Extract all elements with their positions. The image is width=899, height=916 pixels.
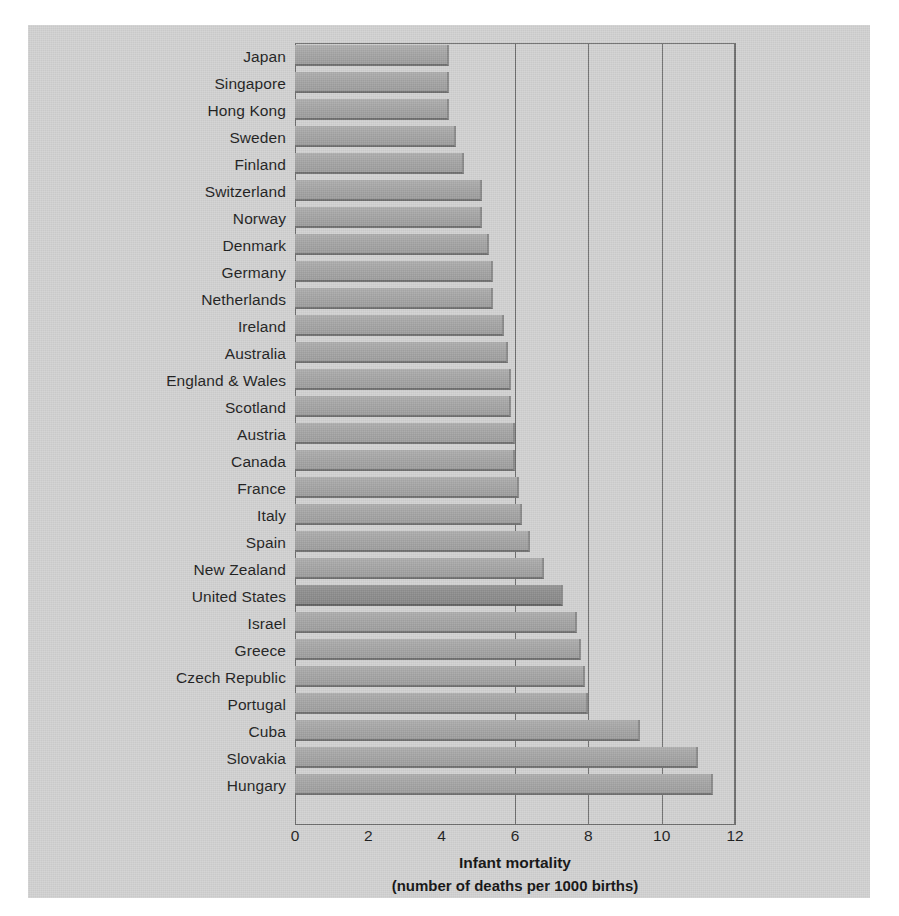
bar-row: France <box>295 475 735 502</box>
bar <box>295 531 530 552</box>
bar-row: Italy <box>295 502 735 529</box>
category-label: Austria <box>237 421 286 448</box>
category-label: Denmark <box>222 232 286 259</box>
category-label: Czech Republic <box>176 664 286 691</box>
bar-row: Czech Republic <box>295 664 735 691</box>
bar-row: England & Wales <box>295 367 735 394</box>
category-label: Switzerland <box>205 178 286 205</box>
category-label: Ireland <box>238 313 286 340</box>
bar <box>295 558 544 579</box>
category-label: Israel <box>247 610 286 637</box>
bar-row: Sweden <box>295 124 735 151</box>
bar <box>295 288 493 309</box>
bar <box>295 720 640 741</box>
category-label: Cuba <box>249 718 286 745</box>
category-label: Netherlands <box>201 286 286 313</box>
bar <box>295 396 511 417</box>
bar-row: Portugal <box>295 691 735 718</box>
bar <box>295 45 449 66</box>
category-label: Norway <box>233 205 286 232</box>
bar-row: Switzerland <box>295 178 735 205</box>
bar-row: Australia <box>295 340 735 367</box>
bar <box>295 666 585 687</box>
bar <box>295 639 581 660</box>
category-label: Germany <box>222 259 286 286</box>
bar <box>295 423 515 444</box>
bar <box>295 585 563 606</box>
bar <box>295 207 482 228</box>
bar <box>295 261 493 282</box>
x-axis-title: Infant mortality (number of deaths per 1… <box>295 851 735 897</box>
category-label: Spain <box>246 529 286 556</box>
bar <box>295 693 588 714</box>
bar-row: Canada <box>295 448 735 475</box>
bar-row: Ireland <box>295 313 735 340</box>
gridline-12 <box>735 43 736 825</box>
bar <box>295 72 449 93</box>
category-label: United States <box>192 583 286 610</box>
category-label: England & Wales <box>166 367 286 394</box>
category-label: Hong Kong <box>208 97 286 124</box>
bar-row: Austria <box>295 421 735 448</box>
bar-row: Hong Kong <box>295 97 735 124</box>
bar <box>295 99 449 120</box>
bar-row: Scotland <box>295 394 735 421</box>
bar-row: Greece <box>295 637 735 664</box>
plot-area: JapanSingaporeHong KongSwedenFinlandSwit… <box>295 43 735 825</box>
category-label: Japan <box>243 43 286 70</box>
bar <box>295 747 698 768</box>
bar <box>295 126 456 147</box>
bar-row: Germany <box>295 259 735 286</box>
category-label: Greece <box>235 637 286 664</box>
bar-row: Israel <box>295 610 735 637</box>
bar <box>295 180 482 201</box>
bar <box>295 450 515 471</box>
category-label: Portugal <box>227 691 286 718</box>
category-label: New Zealand <box>194 556 286 583</box>
category-label: Italy <box>257 502 286 529</box>
x-axis-title-line1: Infant mortality <box>295 851 735 874</box>
category-label: Slovakia <box>227 745 286 772</box>
bar-row: Spain <box>295 529 735 556</box>
bar-row: Netherlands <box>295 286 735 313</box>
bar-row: Cuba <box>295 718 735 745</box>
bar <box>295 774 713 795</box>
bar <box>295 342 508 363</box>
bar-row: United States <box>295 583 735 610</box>
chart-figure: JapanSingaporeHong KongSwedenFinlandSwit… <box>28 25 870 898</box>
bar <box>295 234 489 255</box>
x-tick-label: 2 <box>364 827 373 845</box>
category-label: Sweden <box>229 124 286 151</box>
x-tick-label: 8 <box>584 827 593 845</box>
bar-row: Japan <box>295 43 735 70</box>
bar-row: Finland <box>295 151 735 178</box>
bar <box>295 369 511 390</box>
category-label: Canada <box>231 448 286 475</box>
x-tick-label: 4 <box>437 827 446 845</box>
bar <box>295 477 519 498</box>
bar-row: Denmark <box>295 232 735 259</box>
category-label: Singapore <box>214 70 286 97</box>
category-label: Scotland <box>225 394 286 421</box>
x-tick-label: 6 <box>511 827 520 845</box>
bar-rows: JapanSingaporeHong KongSwedenFinlandSwit… <box>295 43 735 825</box>
x-tick-label: 10 <box>653 827 670 845</box>
bar-row: New Zealand <box>295 556 735 583</box>
bar-row: Singapore <box>295 70 735 97</box>
category-label: Australia <box>225 340 286 367</box>
x-tick-label: 0 <box>291 827 300 845</box>
bar <box>295 612 577 633</box>
category-label: Finland <box>234 151 286 178</box>
x-tick-label: 12 <box>726 827 743 845</box>
x-axis-title-line2: (number of deaths per 1000 births) <box>295 874 735 897</box>
category-label: Hungary <box>227 772 286 799</box>
bar <box>295 315 504 336</box>
bar-row: Slovakia <box>295 745 735 772</box>
bar <box>295 153 464 174</box>
category-label: France <box>237 475 286 502</box>
bar-row: Norway <box>295 205 735 232</box>
bar <box>295 504 522 525</box>
bar-row: Hungary <box>295 772 735 799</box>
